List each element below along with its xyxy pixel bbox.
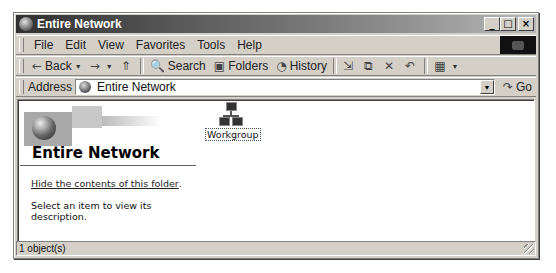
link-period: . xyxy=(179,178,182,189)
go-arrow-icon: ↷ xyxy=(503,80,513,94)
computer-icon xyxy=(232,117,243,126)
computer-icon xyxy=(226,102,237,111)
toolbar-grip[interactable] xyxy=(19,59,24,73)
back-button[interactable]: ← Back ▼ xyxy=(28,59,86,73)
menu-help[interactable]: Help xyxy=(231,38,268,52)
status-bar: 1 object(s) xyxy=(16,241,536,256)
computer-icon xyxy=(219,117,230,126)
resize-grip[interactable] xyxy=(524,244,534,254)
banner-stripe xyxy=(102,116,162,126)
menu-file[interactable]: File xyxy=(28,38,59,52)
windows-logo-icon xyxy=(500,36,536,54)
forward-arrow-icon: → xyxy=(90,59,100,73)
address-input[interactable]: Entire Network ▼ xyxy=(75,79,495,95)
search-icon: 🔍 xyxy=(150,59,165,73)
address-grip[interactable] xyxy=(19,80,24,94)
up-folder-icon: ⇑ xyxy=(121,59,131,73)
hide-contents-link[interactable]: Hide the contents of this folder. xyxy=(31,178,182,189)
go-button[interactable]: ↷ Go xyxy=(495,80,536,94)
history-icon: ◔ xyxy=(276,59,286,73)
network-workgroup-icon xyxy=(219,102,243,126)
copy-to-icon: ⧉ xyxy=(364,59,373,73)
banner-frame xyxy=(72,106,102,128)
folder-view[interactable]: Entire Network Hide the contents of this… xyxy=(17,99,535,242)
forward-dropdown-icon[interactable]: ▼ xyxy=(106,63,113,70)
search-label: Search xyxy=(168,59,206,73)
workgroup-item[interactable]: Workgroup xyxy=(205,102,257,141)
menu-edit[interactable]: Edit xyxy=(59,38,92,52)
title-bar[interactable]: Entire Network _ □ × xyxy=(16,15,536,33)
web-view-panel: Entire Network Hide the contents of this… xyxy=(20,102,196,242)
menu-bar: File Edit View Favorites Tools Help xyxy=(16,35,536,55)
address-dropdown-icon[interactable]: ▼ xyxy=(480,80,494,94)
web-view-title: Entire Network xyxy=(32,144,159,162)
copy-to-button[interactable]: ⧉ xyxy=(360,59,380,73)
address-value[interactable]: Entire Network xyxy=(97,80,176,94)
folders-icon: ▣ xyxy=(214,59,225,73)
address-bar: Address Entire Network ▼ ↷ Go xyxy=(16,77,536,97)
menu-view[interactable]: View xyxy=(92,38,130,52)
toolbar-separator xyxy=(424,58,428,74)
globe-icon xyxy=(32,116,56,140)
toolbar-separator xyxy=(140,58,144,74)
delete-icon: ✕ xyxy=(384,59,394,73)
explorer-window: Entire Network _ □ × File Edit View Favo… xyxy=(13,12,539,259)
move-to-button[interactable]: ⇲ xyxy=(339,59,360,73)
move-to-icon: ⇲ xyxy=(343,59,353,73)
go-label: Go xyxy=(516,80,532,94)
title-divider xyxy=(20,165,196,166)
history-label: History xyxy=(290,59,327,73)
workgroup-label[interactable]: Workgroup xyxy=(205,128,261,141)
network-globe-icon xyxy=(79,81,91,93)
window-controls: _ □ × xyxy=(484,17,534,31)
forward-button[interactable]: → ▼ xyxy=(86,59,117,73)
menu-favorites[interactable]: Favorites xyxy=(130,38,191,52)
address-label: Address xyxy=(28,80,72,94)
menu-tools[interactable]: Tools xyxy=(191,38,231,52)
views-dropdown-icon[interactable]: ▼ xyxy=(452,63,459,70)
folders-label: Folders xyxy=(228,59,268,73)
item-description: Select an item to view its description. xyxy=(31,200,196,222)
menu-grip[interactable] xyxy=(19,38,24,52)
search-button[interactable]: 🔍 Search xyxy=(146,59,210,73)
hide-contents-link-text[interactable]: Hide the contents of this folder xyxy=(31,178,179,189)
window-title: Entire Network xyxy=(37,17,484,31)
views-icon: ▦ xyxy=(434,59,445,73)
maximize-button[interactable]: □ xyxy=(500,17,516,31)
folders-button[interactable]: ▣ Folders xyxy=(210,59,272,73)
up-folder-button[interactable]: ⇑ xyxy=(117,59,138,73)
standard-toolbar: ← Back ▼ → ▼ ⇑ 🔍 Search ▣ Folders ◔ Hist… xyxy=(16,56,536,76)
network-globe-icon xyxy=(19,17,33,31)
status-text: 1 object(s) xyxy=(19,243,66,254)
undo-icon: ↶ xyxy=(405,59,415,73)
toolbar-separator xyxy=(333,58,337,74)
back-label: Back xyxy=(45,59,72,73)
back-arrow-icon: ← xyxy=(32,59,42,73)
views-button[interactable]: ▦ ▼ xyxy=(430,59,462,73)
delete-button[interactable]: ✕ xyxy=(380,59,401,73)
minimize-button[interactable]: _ xyxy=(484,17,500,31)
close-button[interactable]: × xyxy=(518,17,534,31)
history-button[interactable]: ◔ History xyxy=(272,59,331,73)
undo-button[interactable]: ↶ xyxy=(401,59,422,73)
back-dropdown-icon[interactable]: ▼ xyxy=(75,63,82,70)
